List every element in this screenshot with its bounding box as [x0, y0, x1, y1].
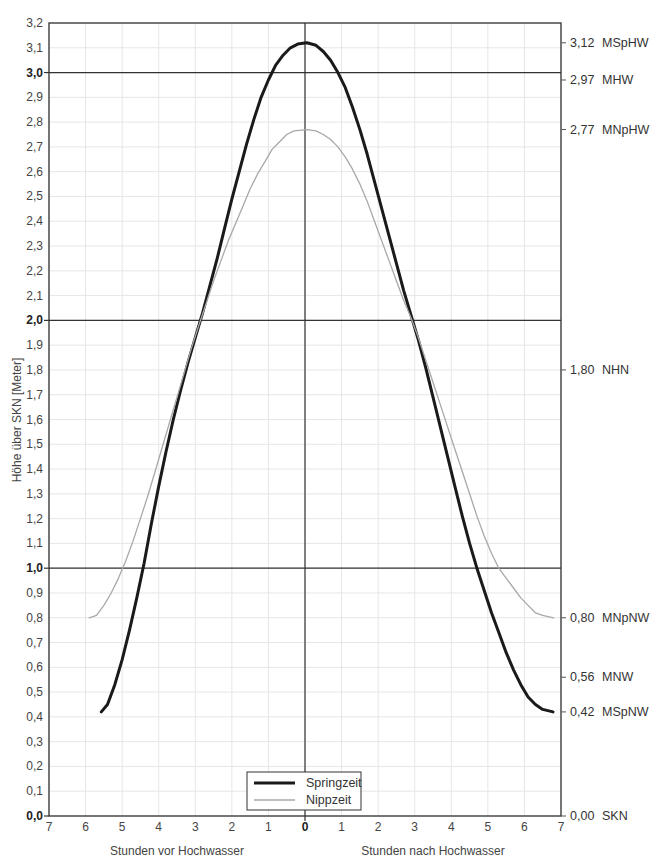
- annotation-value: 0,56: [570, 670, 594, 684]
- y-tick-label: 1,6: [26, 413, 43, 427]
- x-tick-label: 6: [521, 820, 528, 834]
- x-tick-label: 4: [448, 820, 455, 834]
- y-tick-label: 1,8: [26, 363, 43, 377]
- y-tick-label: 2,1: [26, 289, 43, 303]
- y-tick-label: 1,7: [26, 388, 43, 402]
- annotation-label: SKN: [602, 809, 628, 823]
- x-tick-label: 3: [192, 820, 199, 834]
- x-tick-label: 6: [82, 820, 89, 834]
- y-tick-label: 2,4: [26, 214, 43, 228]
- y-tick-label: 0,9: [26, 586, 43, 600]
- y-tick-label: 2,9: [26, 90, 43, 104]
- x-tick-label: 2: [229, 820, 236, 834]
- x-tick-label: 5: [485, 820, 492, 834]
- x-tick-label: 2: [375, 820, 382, 834]
- y-tick-label: 0,0: [26, 809, 43, 823]
- y-tick-label: 2,0: [26, 313, 43, 327]
- y-tick-label: 2,3: [26, 239, 43, 253]
- y-tick-label: 0,1: [26, 784, 43, 798]
- x-tick-label: 4: [155, 820, 162, 834]
- y-tick-label: 1,3: [26, 487, 43, 501]
- y-tick-label: 3,1: [26, 41, 43, 55]
- x-tick-label: 1: [338, 820, 345, 834]
- y-tick-label: 0,5: [26, 685, 43, 699]
- x-axis-ticks: 765432101234567: [46, 816, 565, 834]
- y-tick-label: 2,6: [26, 165, 43, 179]
- y-tick-label: 3,0: [26, 66, 43, 80]
- y-tick-label: 2,8: [26, 115, 43, 129]
- x-tick-label: 3: [411, 820, 418, 834]
- annotation-label: MNpHW: [602, 123, 649, 137]
- annotation-label: MSpNW: [602, 705, 649, 719]
- y-tick-label: 0,8: [26, 611, 43, 625]
- y-tick-label: 0,4: [26, 710, 43, 724]
- y-tick-label: 0,7: [26, 636, 43, 650]
- y-tick-label: 2,5: [26, 189, 43, 203]
- x-tick-label: 7: [46, 820, 53, 834]
- y-tick-label: 1,0: [26, 561, 43, 575]
- tide-chart: 0,00,10,20,30,40,50,60,70,80,91,01,11,21…: [0, 0, 657, 863]
- y-tick-label: 2,2: [26, 264, 43, 278]
- y-tick-label: 1,5: [26, 437, 43, 451]
- annotation-value: 0,00: [570, 809, 594, 823]
- right-annotations: 3,12MSpHW2,97MHW2,77MNpHW1,80NHN0,80MNpN…: [561, 36, 649, 823]
- legend: Springzeit Nippzeit: [247, 772, 362, 810]
- annotation-value: 3,12: [570, 36, 594, 50]
- y-axis-ticks: 0,00,10,20,30,40,50,60,70,80,91,01,11,21…: [26, 16, 49, 823]
- y-tick-label: 0,6: [26, 660, 43, 674]
- y-tick-label: 1,4: [26, 462, 43, 476]
- legend-label-nippzeit: Nippzeit: [306, 793, 352, 807]
- x-axis-label-right: Stunden nach Hochwasser: [361, 844, 504, 858]
- annotation-value: 0,80: [570, 611, 594, 625]
- annotation-label: MNpNW: [602, 611, 649, 625]
- annotation-label: MHW: [602, 73, 633, 87]
- x-tick-label: 7: [558, 820, 565, 834]
- annotation-label: NHN: [602, 363, 629, 377]
- y-tick-label: 0,2: [26, 759, 43, 773]
- y-tick-label: 1,1: [26, 536, 43, 550]
- y-tick-label: 1,9: [26, 338, 43, 352]
- y-tick-label: 1,2: [26, 512, 43, 526]
- legend-label-springzeit: Springzeit: [306, 776, 362, 790]
- x-tick-label: 0: [302, 820, 309, 834]
- y-tick-label: 3,2: [26, 16, 43, 30]
- annotation-label: MNW: [602, 670, 633, 684]
- x-tick-label: 1: [265, 820, 272, 834]
- annotation-value: 0,42: [570, 705, 594, 719]
- y-axis-label: Höhe über SKN [Meter]: [10, 358, 24, 483]
- x-axis-label-left: Stunden vor Hochwasser: [110, 844, 244, 858]
- x-tick-label: 5: [119, 820, 126, 834]
- series-springzeit: [101, 43, 553, 712]
- y-tick-label: 2,7: [26, 140, 43, 154]
- annotation-value: 1,80: [570, 363, 594, 377]
- y-tick-label: 0,3: [26, 735, 43, 749]
- annotation-label: MSpHW: [602, 36, 649, 50]
- annotation-value: 2,77: [570, 123, 594, 137]
- annotation-value: 2,97: [570, 73, 594, 87]
